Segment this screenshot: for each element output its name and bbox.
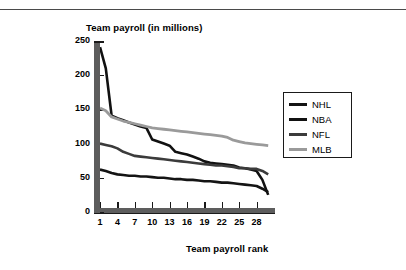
series-line-mlb bbox=[100, 108, 268, 146]
x-tick-label: 28 bbox=[249, 217, 265, 227]
legend-item-nhl[interactable]: NHL bbox=[289, 97, 349, 112]
legend-label: NFL bbox=[312, 127, 330, 142]
legend-item-nba[interactable]: NBA bbox=[289, 112, 349, 127]
chart-figure: Team payroll (in millions) Team payroll … bbox=[0, 0, 406, 270]
x-tick-label: 25 bbox=[231, 217, 247, 227]
x-tick-label: 7 bbox=[127, 217, 143, 227]
chart-legend: NHLNBANFLMLB bbox=[283, 92, 352, 158]
series-line-nfl bbox=[100, 144, 268, 175]
y-tick-mark bbox=[100, 212, 104, 213]
top-divider-rule bbox=[0, 9, 406, 10]
legend-label: NHL bbox=[312, 97, 331, 112]
plot-area bbox=[100, 41, 274, 212]
x-tick-label: 1 bbox=[92, 217, 108, 227]
x-tick-label: 16 bbox=[179, 217, 195, 227]
x-axis-baseline bbox=[94, 213, 275, 214]
legend-label: MLB bbox=[312, 142, 332, 157]
legend-item-nfl[interactable]: NFL bbox=[289, 127, 349, 142]
y-tick-label: 100 bbox=[62, 138, 90, 148]
y-axis-title: Team payroll (in millions) bbox=[86, 22, 202, 33]
series-lines bbox=[100, 41, 274, 212]
y-tick-label: 250 bbox=[62, 35, 90, 45]
x-tick-label: 10 bbox=[144, 217, 160, 227]
legend-swatch-nba bbox=[289, 118, 307, 121]
legend-swatch-nfl bbox=[289, 133, 307, 136]
series-line-nhl bbox=[100, 170, 268, 193]
x-tick-label: 22 bbox=[214, 217, 230, 227]
x-tick-label: 19 bbox=[196, 217, 212, 227]
legend-swatch-mlb bbox=[289, 148, 307, 151]
bottom-divider-rule bbox=[0, 262, 406, 263]
y-tick-label: 0 bbox=[62, 206, 90, 216]
x-tick-label: 13 bbox=[162, 217, 178, 227]
x-axis-title: Team payroll rank bbox=[186, 243, 268, 254]
x-tick-label: 4 bbox=[109, 217, 125, 227]
legend-item-mlb[interactable]: MLB bbox=[289, 142, 349, 157]
legend-swatch-nhl bbox=[289, 103, 307, 106]
y-tick-label: 150 bbox=[62, 103, 90, 113]
y-tick-label: 200 bbox=[62, 69, 90, 79]
y-tick-label: 50 bbox=[62, 172, 90, 182]
legend-label: NBA bbox=[312, 112, 332, 127]
